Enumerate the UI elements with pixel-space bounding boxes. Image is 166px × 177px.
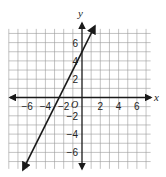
- grid-lines: [9, 29, 151, 169]
- x-tick-label: 2: [98, 101, 104, 112]
- x-tick-labels: −6−4−2246: [21, 101, 140, 112]
- x-tick-label: −6: [21, 101, 33, 112]
- x-tick-label: 6: [134, 101, 140, 112]
- coordinate-plane: −6−4−2246 642−2−4−6 x y O: [0, 0, 166, 177]
- x-tick-label: −4: [40, 101, 52, 112]
- y-tick-label: 6: [72, 38, 78, 49]
- origin-label: O: [71, 99, 78, 110]
- y-tick-label: −4: [67, 129, 79, 140]
- y-tick-label: −6: [67, 147, 79, 158]
- y-axis-label: y: [77, 7, 83, 19]
- y-tick-label: 2: [72, 74, 78, 85]
- x-axis-label: x: [153, 91, 159, 103]
- y-tick-label: −2: [67, 111, 79, 122]
- x-tick-label: 4: [116, 101, 122, 112]
